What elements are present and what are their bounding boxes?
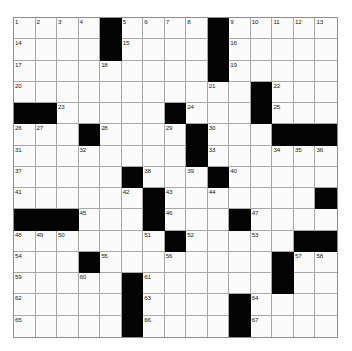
crossword-cell[interactable]	[100, 146, 122, 167]
crossword-cell[interactable]: 41	[14, 188, 36, 209]
crossword-cell[interactable]	[165, 316, 187, 337]
crossword-cell[interactable]: 55	[100, 252, 122, 273]
crossword-cell[interactable]	[251, 61, 273, 82]
crossword-cell[interactable]	[79, 82, 101, 103]
crossword-cell[interactable]: 35	[294, 146, 316, 167]
crossword-cell[interactable]	[186, 82, 208, 103]
crossword-cell[interactable]	[294, 39, 316, 60]
crossword-cell[interactable]	[229, 82, 251, 103]
crossword-cell[interactable]	[100, 231, 122, 252]
crossword-cell[interactable]: 33	[208, 146, 230, 167]
crossword-cell[interactable]: 30	[208, 124, 230, 145]
crossword-cell[interactable]: 26	[14, 124, 36, 145]
crossword-cell[interactable]: 52	[186, 231, 208, 252]
crossword-cell[interactable]	[57, 294, 79, 315]
crossword-cell[interactable]: 48	[14, 231, 36, 252]
crossword-cell[interactable]	[79, 316, 101, 337]
crossword-cell[interactable]	[36, 316, 58, 337]
crossword-cell[interactable]	[294, 82, 316, 103]
crossword-cell[interactable]: 58	[315, 252, 337, 273]
crossword-cell[interactable]	[186, 209, 208, 230]
crossword-cell[interactable]: 31	[14, 146, 36, 167]
crossword-cell[interactable]	[57, 252, 79, 273]
crossword-cell[interactable]	[36, 39, 58, 60]
crossword-cell[interactable]	[186, 39, 208, 60]
crossword-cell[interactable]: 46	[165, 209, 187, 230]
crossword-cell[interactable]	[36, 188, 58, 209]
crossword-cell[interactable]	[165, 167, 187, 188]
crossword-cell[interactable]	[165, 273, 187, 294]
crossword-cell[interactable]	[229, 231, 251, 252]
crossword-cell[interactable]	[79, 167, 101, 188]
crossword-cell[interactable]	[251, 146, 273, 167]
crossword-cell[interactable]	[122, 103, 144, 124]
crossword-cell[interactable]	[122, 209, 144, 230]
crossword-cell[interactable]	[294, 294, 316, 315]
crossword-cell[interactable]	[272, 294, 294, 315]
crossword-cell[interactable]	[143, 146, 165, 167]
crossword-grid[interactable]: 1234567891011121314151617181920212223242…	[13, 17, 338, 338]
crossword-cell[interactable]: 15	[122, 39, 144, 60]
crossword-cell[interactable]	[79, 294, 101, 315]
crossword-cell[interactable]: 67	[251, 316, 273, 337]
crossword-cell[interactable]: 27	[36, 124, 58, 145]
crossword-cell[interactable]	[272, 209, 294, 230]
crossword-cell[interactable]	[143, 124, 165, 145]
crossword-cell[interactable]	[165, 294, 187, 315]
crossword-cell[interactable]	[122, 252, 144, 273]
crossword-cell[interactable]: 43	[165, 188, 187, 209]
crossword-cell[interactable]: 6	[143, 18, 165, 39]
crossword-cell[interactable]	[57, 124, 79, 145]
crossword-cell[interactable]: 14	[14, 39, 36, 60]
crossword-cell[interactable]	[229, 124, 251, 145]
crossword-cell[interactable]	[79, 188, 101, 209]
crossword-cell[interactable]	[294, 61, 316, 82]
crossword-cell[interactable]: 37	[14, 167, 36, 188]
crossword-cell[interactable]	[294, 209, 316, 230]
crossword-cell[interactable]: 3	[57, 18, 79, 39]
crossword-cell[interactable]: 66	[143, 316, 165, 337]
crossword-cell[interactable]	[229, 103, 251, 124]
crossword-cell[interactable]	[315, 273, 337, 294]
crossword-cell[interactable]	[143, 252, 165, 273]
crossword-cell[interactable]	[186, 294, 208, 315]
crossword-cell[interactable]	[251, 188, 273, 209]
crossword-cell[interactable]	[57, 146, 79, 167]
crossword-cell[interactable]	[272, 231, 294, 252]
crossword-cell[interactable]	[36, 146, 58, 167]
crossword-cell[interactable]	[100, 209, 122, 230]
crossword-cell[interactable]: 54	[14, 252, 36, 273]
crossword-cell[interactable]	[186, 61, 208, 82]
crossword-cell[interactable]: 57	[294, 252, 316, 273]
crossword-cell[interactable]	[208, 209, 230, 230]
crossword-cell[interactable]: 18	[100, 61, 122, 82]
crossword-cell[interactable]: 44	[208, 188, 230, 209]
crossword-cell[interactable]	[208, 231, 230, 252]
crossword-cell[interactable]: 5	[122, 18, 144, 39]
crossword-cell[interactable]	[272, 188, 294, 209]
crossword-cell[interactable]: 22	[272, 82, 294, 103]
crossword-cell[interactable]	[165, 39, 187, 60]
crossword-cell[interactable]	[315, 103, 337, 124]
crossword-cell[interactable]: 12	[294, 18, 316, 39]
crossword-cell[interactable]	[294, 103, 316, 124]
crossword-cell[interactable]: 49	[36, 231, 58, 252]
crossword-cell[interactable]: 36	[315, 146, 337, 167]
crossword-cell[interactable]: 4	[79, 18, 101, 39]
crossword-cell[interactable]: 61	[143, 273, 165, 294]
crossword-cell[interactable]	[229, 188, 251, 209]
crossword-cell[interactable]: 45	[79, 209, 101, 230]
crossword-cell[interactable]: 21	[208, 82, 230, 103]
crossword-cell[interactable]	[122, 146, 144, 167]
crossword-cell[interactable]	[208, 316, 230, 337]
crossword-cell[interactable]	[79, 39, 101, 60]
crossword-cell[interactable]	[57, 273, 79, 294]
crossword-cell[interactable]	[315, 209, 337, 230]
crossword-cell[interactable]: 1	[14, 18, 36, 39]
crossword-cell[interactable]	[186, 252, 208, 273]
crossword-cell[interactable]: 29	[165, 124, 187, 145]
crossword-cell[interactable]	[100, 188, 122, 209]
crossword-cell[interactable]	[57, 82, 79, 103]
crossword-cell[interactable]: 64	[251, 294, 273, 315]
crossword-cell[interactable]	[294, 167, 316, 188]
